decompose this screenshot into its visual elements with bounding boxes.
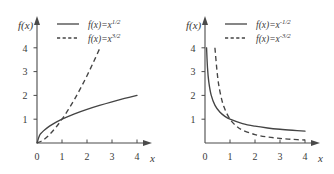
x-tick-label: 3 [110, 151, 115, 162]
y-tick-label: 1 [191, 114, 196, 125]
y-axis-label-left: f(x) [18, 19, 34, 32]
y-tick-label: 2 [23, 90, 28, 101]
y-axis-arrow-icon [202, 16, 208, 25]
x-tick-label: 0 [203, 151, 208, 162]
y-tick-label: 2 [191, 90, 196, 101]
y-tick-label: 4 [23, 43, 28, 54]
legend-left: f(x)=x1/2 f(x)=x3/2 [57, 18, 121, 45]
y-tick-label: 1 [23, 114, 28, 125]
chart-panel-right: f(x) x 4 3 2 1 0 1 2 3 4 f(x)=x-1/2 [167, 0, 334, 174]
x-axis-arrow-icon [143, 140, 152, 146]
y-tick-label: 3 [191, 66, 196, 77]
x-tick-label: 1 [228, 151, 233, 162]
x-axis-arrow-icon [311, 140, 320, 146]
legend-entry-2: f(x)=x3/2 [88, 32, 121, 45]
x-tick-label: 1 [60, 151, 65, 162]
x-tick-label: 0 [35, 151, 40, 162]
x-axis-label-left: x [149, 152, 155, 164]
chart-panel-left: f(x) x 4 3 2 1 0 1 2 3 4 f(x)=x1/2 [0, 0, 167, 174]
y-axis-right [202, 16, 209, 143]
curve-sqrt [37, 95, 137, 143]
x-tick-label: 4 [303, 151, 308, 162]
curve-x-minus-three-halves [215, 48, 305, 140]
legend-right: f(x)=x-1/2 f(x)=x-3/2 [225, 18, 291, 45]
curve-x-minus-half [207, 48, 305, 131]
y-tick-label: 4 [191, 43, 196, 54]
x-axis-label-right: x [317, 152, 323, 164]
y-axis-arrow-icon [34, 16, 40, 25]
x-tick-label: 2 [85, 151, 90, 162]
y-tick-label: 3 [23, 66, 28, 77]
x-tick-label: 2 [253, 151, 258, 162]
figure-container: f(x) x 4 3 2 1 0 1 2 3 4 f(x)=x1/2 [0, 0, 334, 174]
x-tick-label: 3 [278, 151, 283, 162]
legend-entry-1: f(x)=x1/2 [88, 18, 121, 31]
y-axis-label-right: f(x) [186, 19, 202, 32]
legend-entry-1: f(x)=x-1/2 [256, 18, 291, 31]
x-tick-label: 4 [135, 151, 140, 162]
x-axis-left [37, 140, 152, 147]
legend-entry-2: f(x)=x-3/2 [256, 32, 291, 45]
y-axis-left [34, 16, 41, 143]
